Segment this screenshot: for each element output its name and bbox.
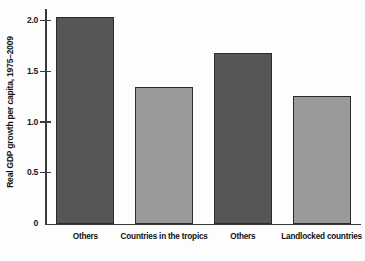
x-axis-label-2: Countries in the tropics	[121, 232, 208, 241]
y-axis-tick-label: 1.0	[0, 118, 38, 127]
bar-4	[293, 96, 351, 224]
x-axis-label-4: Landlocked countries	[281, 232, 362, 241]
plot-area	[46, 9, 361, 224]
x-axis-label-1: Others	[73, 232, 98, 241]
y-axis-title: Real GDP growth per capita, 1975–2009	[2, 0, 18, 224]
bar-2	[135, 87, 193, 224]
x-axis-label-3: Others	[230, 232, 255, 241]
y-axis-tick-label: 2.0	[0, 16, 38, 25]
bar-chart: Real GDP growth per capita, 1975–2009 00…	[0, 0, 365, 261]
y-axis-tick-label: 1.5	[0, 67, 38, 76]
y-axis-tick-label: 0.5	[0, 168, 38, 177]
y-axis-tick-label: 0	[0, 219, 38, 228]
bar-3	[214, 53, 272, 224]
bar-1	[56, 17, 114, 224]
